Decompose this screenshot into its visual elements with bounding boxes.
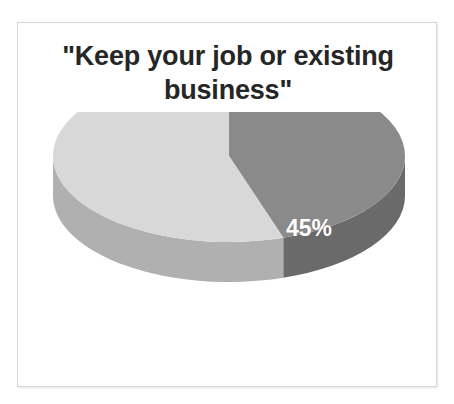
chart-figure[interactable]: "Keep your job or existing business" 45%	[17, 22, 437, 387]
chart-title: "Keep your job or existing business"	[18, 39, 438, 107]
pie-chart-3d[interactable]	[18, 112, 438, 352]
pie-plot-area[interactable]: 45%	[18, 112, 438, 352]
pie-slice-label-45-percent: 45%	[286, 215, 332, 242]
